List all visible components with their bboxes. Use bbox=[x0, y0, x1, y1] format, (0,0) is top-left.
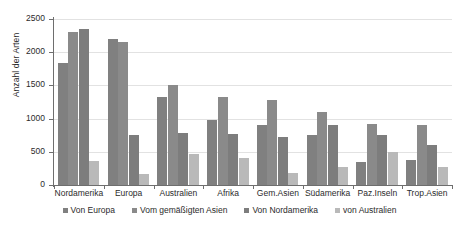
legend-label: Vom gemäßigten Asien bbox=[140, 205, 227, 215]
legend-label: Von Nordamerika bbox=[252, 205, 318, 215]
bar bbox=[178, 133, 188, 185]
x-axis-tick-label: Australien bbox=[154, 188, 204, 198]
y-axis-title: Anzahl der Arten bbox=[11, 5, 21, 125]
legend-label: von Australien bbox=[343, 205, 396, 215]
bar bbox=[129, 135, 139, 185]
bar bbox=[328, 125, 338, 185]
bar bbox=[388, 152, 398, 185]
bar bbox=[108, 39, 118, 185]
bar bbox=[189, 154, 199, 185]
y-axis-tick-label: 500 bbox=[0, 146, 45, 156]
bar bbox=[118, 42, 128, 185]
bar bbox=[168, 85, 178, 185]
x-axis-tick-label: Paz.Inseln bbox=[353, 188, 403, 198]
bar bbox=[207, 120, 217, 185]
bar bbox=[68, 32, 78, 185]
bar bbox=[417, 125, 427, 185]
bar bbox=[317, 112, 327, 185]
legend-item[interactable]: Vom gemäßigten Asien bbox=[132, 205, 227, 215]
plot-area bbox=[54, 19, 452, 185]
x-axis-tick-label: Südamerika bbox=[303, 188, 353, 198]
legend-swatch-icon bbox=[335, 208, 340, 213]
y-axis-tick-label: 1000 bbox=[0, 113, 45, 123]
bar bbox=[218, 97, 228, 185]
legend-swatch-icon bbox=[132, 208, 137, 213]
y-axis-tick-label: 2500 bbox=[0, 13, 45, 23]
bar bbox=[406, 160, 416, 185]
bar bbox=[79, 29, 89, 185]
x-axis-tick-label: Gem.Asien bbox=[253, 188, 303, 198]
bar-group bbox=[402, 19, 452, 185]
legend-swatch-icon bbox=[244, 208, 249, 213]
bar-group bbox=[253, 19, 303, 185]
bar-group bbox=[154, 19, 204, 185]
bar-chart: Anzahl der Arten 05001000150020002500 No… bbox=[0, 0, 459, 235]
bar-group bbox=[303, 19, 353, 185]
x-axis-tick-label: Nordamerika bbox=[54, 188, 104, 198]
bar bbox=[239, 158, 249, 185]
legend-item[interactable]: von Australien bbox=[335, 205, 396, 215]
bar bbox=[139, 174, 149, 185]
bar bbox=[367, 124, 377, 185]
bar bbox=[356, 162, 366, 185]
y-axis-tick-label: 2000 bbox=[0, 46, 45, 56]
bar bbox=[278, 137, 288, 185]
bar bbox=[288, 173, 298, 185]
y-axis-tick-label: 0 bbox=[0, 179, 45, 189]
bar-group bbox=[353, 19, 403, 185]
bar bbox=[307, 135, 317, 185]
bar bbox=[257, 125, 267, 185]
bar bbox=[338, 167, 348, 185]
bar-group bbox=[54, 19, 104, 185]
legend-item[interactable]: Von Europa bbox=[63, 205, 115, 215]
x-axis-tick-mark bbox=[452, 185, 453, 189]
legend: Von EuropaVom gemäßigten AsienVon Nordam… bbox=[0, 205, 459, 215]
x-axis-tick-label: Europa bbox=[104, 188, 154, 198]
bar bbox=[58, 63, 68, 185]
x-axis-tick-label: Trop.Asien bbox=[402, 188, 452, 198]
bar bbox=[228, 134, 238, 185]
x-axis-tick-label: Afrika bbox=[203, 188, 253, 198]
bar bbox=[157, 97, 167, 185]
legend-item[interactable]: Von Nordamerika bbox=[244, 205, 318, 215]
bar bbox=[377, 135, 387, 185]
bar bbox=[267, 100, 277, 185]
bar bbox=[438, 167, 448, 185]
legend-label: Von Europa bbox=[71, 205, 115, 215]
bar-group bbox=[104, 19, 154, 185]
legend-swatch-icon bbox=[63, 208, 68, 213]
bar-group bbox=[203, 19, 253, 185]
bar bbox=[427, 145, 437, 185]
y-axis-tick-label: 1500 bbox=[0, 79, 45, 89]
bar bbox=[89, 161, 99, 185]
